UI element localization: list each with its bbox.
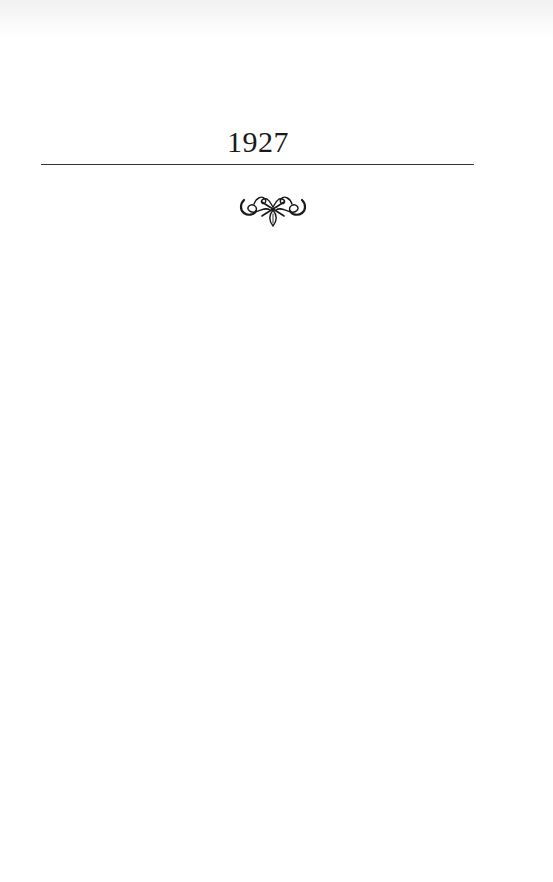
horizontal-rule <box>41 164 474 165</box>
chapter-title: 1927 <box>0 124 516 160</box>
page-top-shading <box>0 0 553 40</box>
fleuron-icon <box>238 190 308 230</box>
